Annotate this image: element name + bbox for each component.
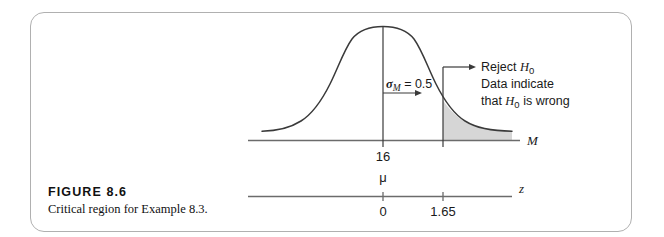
annotation-line-1-prefix: Reject [481,60,520,74]
annotation-line-1-subscript: 0 [529,65,534,76]
sigma-value: = 0.5 [401,77,433,91]
figure-caption-text: Critical region for Example 8.3. [48,202,278,217]
annotation-line-1: Reject H0 [481,60,534,76]
z-axis-label: z [518,181,524,196]
figure-number-label: FIGURE 8.6 [48,185,278,199]
annotation-line-3-suffix: is wrong [520,94,570,108]
annotation-line-3: that H0 is wrong [481,94,570,110]
z-axis-tick-label-0: 0 [379,204,386,219]
standard-error-label: σM = 0.5 [386,77,432,93]
annotation-line-2: Data indicate [481,77,554,91]
figure-page: M σM = 0.5 Reject H0 Data indicate that … [0,0,664,237]
annotation-line-3-prefix: that [481,94,505,108]
population-mean-symbol: μ [379,170,387,185]
m-axis-label: M [526,133,539,148]
z-axis-tick-label-165: 1.65 [430,204,455,219]
annotation-arrow-head [469,64,476,70]
m-axis-tick-16: 16 [376,149,390,164]
figure-caption: FIGURE 8.6 Critical region for Example 8… [48,185,278,217]
